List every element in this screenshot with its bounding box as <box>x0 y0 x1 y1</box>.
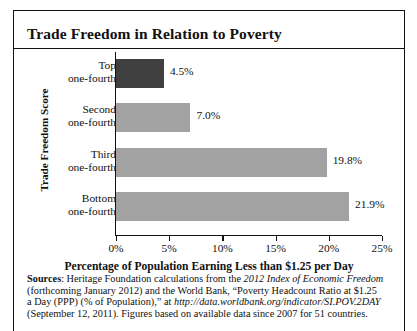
x-axis-tick <box>116 236 117 241</box>
x-axis-tick-label: 25% <box>362 242 402 254</box>
category-label-line2: one-fourth <box>24 116 116 129</box>
bar-top-one-fourth[interactable] <box>116 59 164 88</box>
category-label-line1: Second <box>24 103 116 116</box>
category-label-second: Second one-fourth <box>24 103 116 128</box>
x-axis-tick <box>169 236 170 241</box>
source-note-label: Sources <box>27 273 61 284</box>
x-axis-tick-label: 20% <box>309 242 349 254</box>
source-note-index-title: 2012 Index of Economic Freedom <box>244 273 384 284</box>
source-note-url[interactable]: http://data.worldbank.org/indicator/SI.P… <box>174 296 381 307</box>
chart-plot-area: Trade Freedom Score Top one-fourth Secon… <box>14 50 404 266</box>
bar-value-label-bottom: 21.9% <box>355 198 384 210</box>
x-axis-title: Percentage of Population Earning Less th… <box>14 260 404 273</box>
category-label-line2: one-fourth <box>24 72 116 85</box>
category-label-line2: one-fourth <box>24 205 116 218</box>
x-axis-tick <box>329 236 330 241</box>
x-axis-tick-label: 5% <box>149 242 189 254</box>
bar-value-label-top: 4.5% <box>170 65 194 77</box>
page-title: Trade Freedom in Relation to Poverty <box>27 25 282 43</box>
category-label-line1: Bottom <box>24 192 116 205</box>
bar-value-label-third: 19.8% <box>333 154 362 166</box>
x-axis-tick <box>382 236 383 241</box>
category-label-third: Third one-fourth <box>24 148 116 173</box>
bar-value-label-second: 7.0% <box>196 109 220 121</box>
source-note-line-4: (September 12, 2011). Figures based on a… <box>27 308 393 320</box>
x-axis-tick-label: 10% <box>202 242 242 254</box>
source-note: Sources: Heritage Foundation calculation… <box>27 273 393 319</box>
bar-second-one-fourth[interactable] <box>116 103 190 132</box>
category-label-line2: one-fourth <box>24 161 116 174</box>
category-label-line1: Third <box>24 148 116 161</box>
x-axis-tick-label: 15% <box>256 242 296 254</box>
source-note-line3-text: a Day (PPP) (% of Population),” at <box>27 296 174 307</box>
x-axis-tick <box>222 236 223 241</box>
category-label-top: Top one-fourth <box>24 59 116 84</box>
category-label-line1: Top <box>24 59 116 72</box>
x-axis-tick-label: 0% <box>96 242 136 254</box>
source-note-line-1: Sources: Heritage Foundation calculation… <box>27 273 393 285</box>
x-axis-tick <box>276 236 277 241</box>
bar-third-one-fourth[interactable] <box>116 148 327 177</box>
category-label-bottom: Bottom one-fourth <box>24 192 116 217</box>
source-note-line-2: (forthcoming January 2012) and the World… <box>27 285 393 297</box>
figure-container: Trade Freedom in Relation to Poverty Tra… <box>13 10 405 331</box>
bar-bottom-one-fourth[interactable] <box>116 192 349 221</box>
source-note-line-3: a Day (PPP) (% of Population),” at http:… <box>27 296 393 308</box>
x-axis-line <box>115 235 382 236</box>
source-note-line1-text: : Heritage Foundation calculations from … <box>61 273 243 284</box>
